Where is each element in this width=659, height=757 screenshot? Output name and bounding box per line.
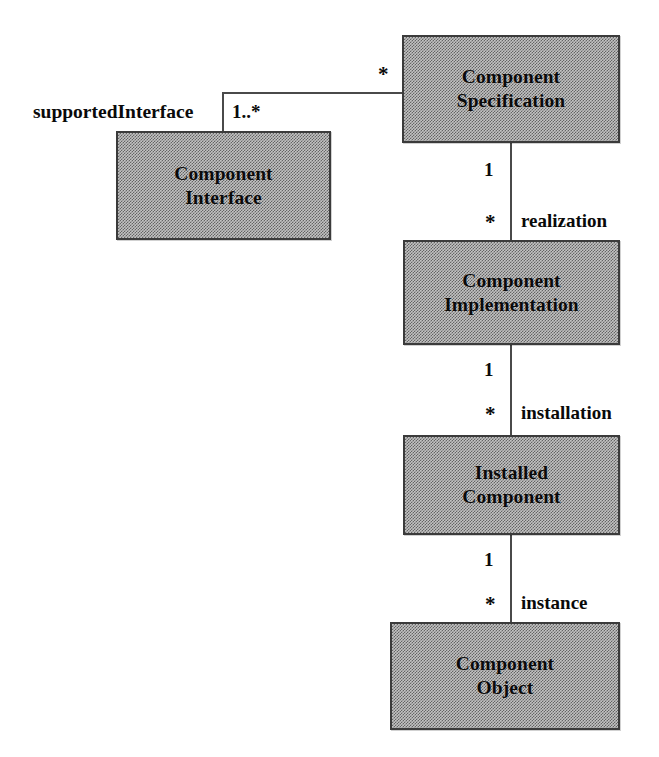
role-label-instance: instance xyxy=(521,593,588,612)
multiplicity-realization-source: 1 xyxy=(484,160,494,179)
uml-class-diagram: Component Specification Component Interf… xyxy=(0,0,659,757)
class-box-component-interface-label: Component Interface xyxy=(174,162,272,210)
class-box-installed-component[interactable]: Installed Component xyxy=(403,435,620,535)
association-line-installation xyxy=(510,343,512,437)
multiplicity-supported-interface-source: * xyxy=(378,64,389,85)
class-box-component-object-label: Component Object xyxy=(456,652,554,700)
class-box-component-object[interactable]: Component Object xyxy=(390,622,620,730)
role-label-supported-interface: supportedInterface xyxy=(33,102,193,122)
association-line-supported-interface-horizontal xyxy=(222,92,404,94)
multiplicity-realization-target: * xyxy=(485,212,496,233)
association-line-realization xyxy=(510,141,512,242)
multiplicity-instance-target: * xyxy=(485,594,496,615)
multiplicity-installation-target: * xyxy=(485,404,496,425)
multiplicity-supported-interface-target: 1..* xyxy=(232,102,261,121)
association-line-instance xyxy=(510,533,512,624)
multiplicity-instance-source: 1 xyxy=(484,550,494,569)
role-label-realization: realization xyxy=(521,211,607,230)
class-box-component-implementation-label: Component Implementation xyxy=(444,269,579,317)
class-box-component-interface[interactable]: Component Interface xyxy=(116,131,331,240)
class-box-component-implementation[interactable]: Component Implementation xyxy=(403,240,620,345)
role-label-installation: installation xyxy=(521,403,612,422)
multiplicity-installation-source: 1 xyxy=(484,360,494,379)
class-box-component-specification[interactable]: Component Specification xyxy=(402,35,620,143)
association-line-supported-interface-vertical xyxy=(222,92,224,133)
class-box-installed-component-label: Installed Component xyxy=(462,461,560,509)
class-box-component-specification-label: Component Specification xyxy=(457,65,566,113)
